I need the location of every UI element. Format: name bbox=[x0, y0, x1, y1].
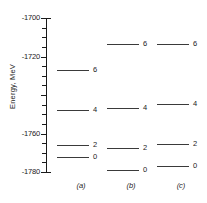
y-axis-major-tick bbox=[41, 172, 47, 173]
energy-level-line bbox=[157, 44, 189, 45]
level-column: 6420(b) bbox=[107, 0, 155, 203]
energy-level-label: 0 bbox=[193, 161, 197, 170]
y-axis-tick-label: -1700 bbox=[0, 13, 40, 22]
y-axis-minor-tick bbox=[42, 85, 47, 86]
energy-level-line bbox=[57, 70, 89, 71]
energy-level-label: 2 bbox=[143, 143, 147, 152]
y-axis-major-tick bbox=[41, 18, 47, 19]
energy-level-line bbox=[57, 157, 89, 158]
column-caption: (a) bbox=[57, 181, 105, 190]
energy-level-label: 6 bbox=[93, 65, 97, 74]
y-axis-tick-label: -1760 bbox=[0, 129, 40, 138]
y-axis-minor-tick bbox=[42, 76, 47, 77]
energy-level-label: 4 bbox=[193, 99, 197, 108]
energy-level-label: 0 bbox=[93, 152, 97, 161]
y-axis-minor-tick bbox=[42, 143, 47, 144]
energy-level-label: 4 bbox=[93, 105, 97, 114]
energy-level-label: 6 bbox=[143, 39, 147, 48]
energy-level-label: 6 bbox=[193, 39, 197, 48]
y-axis-tick-label: -1780 bbox=[0, 167, 40, 176]
y-axis-minor-tick bbox=[42, 37, 47, 38]
energy-level-line bbox=[157, 104, 189, 105]
y-axis-minor-tick bbox=[42, 47, 47, 48]
energy-level-line bbox=[57, 110, 89, 111]
y-axis-minor-tick bbox=[42, 28, 47, 29]
y-axis-minor-tick bbox=[42, 162, 47, 163]
energy-level-label: 2 bbox=[193, 139, 197, 148]
y-axis-tick-labels: -1700-1720-1760-1780 bbox=[0, 0, 40, 203]
column-caption: (b) bbox=[107, 181, 155, 190]
energy-level-line bbox=[107, 44, 139, 45]
y-axis-major-tick bbox=[41, 95, 47, 96]
column-caption: (c) bbox=[157, 181, 205, 190]
energy-level-line bbox=[57, 145, 89, 146]
y-axis-major-tick bbox=[41, 57, 47, 58]
energy-level-line bbox=[107, 170, 139, 171]
energy-level-line bbox=[157, 144, 189, 145]
y-axis-minor-tick bbox=[42, 114, 47, 115]
energy-level-line bbox=[157, 166, 189, 167]
y-axis-tick-label: -1720 bbox=[0, 52, 40, 61]
y-axis-title: Energy, MeV bbox=[8, 52, 17, 122]
energy-level-label: 2 bbox=[93, 140, 97, 149]
level-column: 6420(c) bbox=[157, 0, 205, 203]
y-axis-minor-tick bbox=[42, 66, 47, 67]
energy-level-label: 0 bbox=[143, 165, 147, 174]
energy-level-label: 4 bbox=[143, 103, 147, 112]
y-axis-minor-tick bbox=[42, 153, 47, 154]
y-axis-minor-tick bbox=[42, 124, 47, 125]
y-axis-major-tick bbox=[41, 134, 47, 135]
energy-level-diagram: -1700-1720-1760-1780 Energy, MeV 6420(a)… bbox=[0, 0, 207, 203]
energy-level-line bbox=[107, 108, 139, 109]
y-axis-minor-tick bbox=[42, 105, 47, 106]
level-column: 6420(a) bbox=[57, 0, 105, 203]
energy-level-line bbox=[107, 148, 139, 149]
